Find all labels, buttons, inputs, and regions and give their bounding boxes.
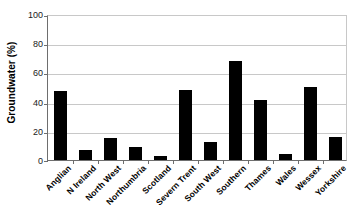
y-axis-title-text: Groundwater (%)	[6, 41, 17, 123]
bar	[329, 137, 342, 160]
bar	[154, 156, 167, 160]
bar	[79, 150, 92, 160]
y-axis-tick-labels: 020406080100	[22, 15, 46, 161]
y-axis-tick-label: 40	[33, 98, 43, 108]
bar	[304, 87, 317, 160]
bar-chart: Groundwater (%) 020406080100 AnglianN Ir…	[0, 0, 359, 219]
bar	[129, 147, 142, 160]
plot-area	[47, 15, 347, 161]
y-axis-tick-mark	[44, 161, 48, 162]
x-axis-tick-labels: AnglianN IrelandNorth WestNorthumbriaSco…	[47, 163, 347, 219]
y-axis-tick-label: 20	[33, 127, 43, 137]
bar	[54, 91, 67, 160]
x-axis-tick-label: Thames	[242, 163, 272, 193]
y-axis-tick-label: 60	[33, 68, 43, 78]
y-axis-tick-label: 100	[28, 10, 43, 20]
y-axis-tick-label: 80	[33, 39, 43, 49]
bar	[104, 138, 117, 160]
bar	[204, 142, 217, 160]
bar	[279, 154, 292, 160]
bar	[229, 61, 242, 160]
y-axis-title: Groundwater (%)	[0, 0, 22, 165]
bars-container	[48, 16, 346, 160]
y-axis-tick-label: 0	[38, 156, 43, 166]
bar	[179, 90, 192, 160]
bar	[254, 100, 267, 160]
